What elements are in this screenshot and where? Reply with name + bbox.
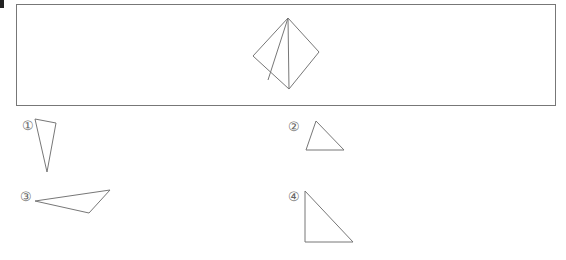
option-1-triangle	[35, 119, 56, 172]
option-2-triangle	[306, 121, 344, 150]
figures-canvas	[0, 0, 566, 260]
diamond-figure	[253, 18, 319, 89]
option-4-label[interactable]: ④	[288, 190, 300, 204]
option-3-label[interactable]: ③	[20, 190, 32, 204]
option-1-label[interactable]: ①	[22, 119, 34, 133]
fold-line-1	[268, 18, 288, 80]
option-2-label[interactable]: ②	[288, 120, 300, 134]
option-4-triangle	[305, 191, 353, 242]
fold-line-2	[288, 18, 289, 89]
option-3-triangle	[35, 190, 110, 213]
